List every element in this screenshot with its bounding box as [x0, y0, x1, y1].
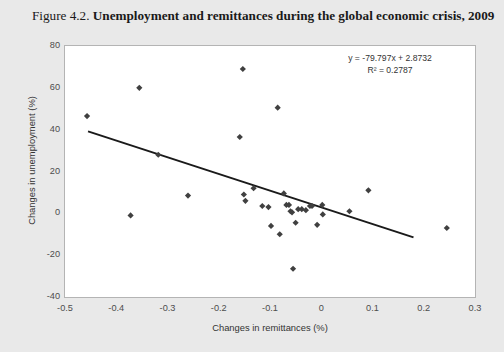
- scatter-plot-svg: [65, 46, 475, 297]
- data-point-marker: [444, 225, 450, 231]
- plot-frame: [64, 45, 476, 298]
- x-tick-label: -0.3: [148, 303, 188, 313]
- regression-equation: y = -79.797x + 2.8732: [310, 53, 470, 65]
- data-point-marker: [237, 134, 243, 140]
- data-point-marker: [240, 66, 246, 72]
- data-point-marker: [265, 204, 271, 210]
- data-point-marker: [268, 223, 274, 229]
- data-point-marker: [277, 231, 283, 237]
- x-tick-label: 0.3: [455, 303, 495, 313]
- data-point-marker: [365, 187, 371, 193]
- data-point-marker: [84, 113, 90, 119]
- data-point-marker: [346, 208, 352, 214]
- x-tick-label: -0.5: [45, 303, 85, 313]
- data-point-marker: [293, 220, 299, 226]
- data-point-marker: [136, 85, 142, 91]
- x-tick-label: 0.2: [404, 303, 444, 313]
- x-tick-label: 0: [301, 303, 341, 313]
- x-tick-label: -0.1: [250, 303, 290, 313]
- chart-area: Changes in unemployment (%) -40-20020406…: [0, 30, 504, 352]
- figure-number: Figure 4.2.: [32, 8, 90, 23]
- data-point-marker: [128, 212, 134, 218]
- figure-caption: Unemployment and remittances during the …: [93, 8, 495, 23]
- data-point-marker: [314, 222, 320, 228]
- r-squared-value: R² = 0.2787: [310, 65, 470, 77]
- figure-title: Figure 4.2. Unemployment and remittances…: [32, 8, 482, 24]
- data-point-marker: [320, 211, 326, 217]
- x-tick-label: -0.4: [96, 303, 136, 313]
- x-tick-label: 0.1: [353, 303, 393, 313]
- figure-container: Figure 4.2. Unemployment and remittances…: [0, 0, 504, 352]
- data-point-marker: [259, 203, 265, 209]
- x-axis-label: Changes in remittances (%): [64, 322, 476, 333]
- data-point-marker: [290, 266, 296, 272]
- data-point-marker: [242, 198, 248, 204]
- x-tick-label: -0.2: [199, 303, 239, 313]
- regression-annotation: y = -79.797x + 2.8732 R² = 0.2787: [310, 53, 470, 76]
- trendline: [88, 131, 413, 237]
- data-point-marker: [241, 191, 247, 197]
- data-point-marker: [275, 105, 281, 111]
- data-point-marker: [185, 192, 191, 198]
